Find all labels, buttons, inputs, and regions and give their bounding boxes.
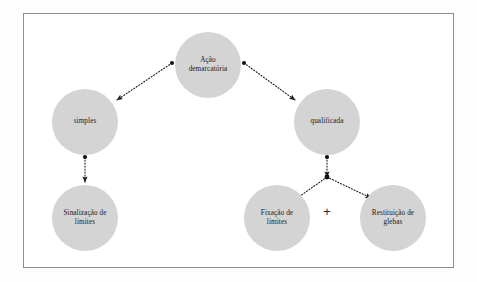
node-label: simples bbox=[69, 117, 102, 127]
connector-origin-dot bbox=[170, 61, 174, 65]
plus-conjunction-symbol: + bbox=[323, 205, 331, 218]
node-simples[interactable]: simples bbox=[52, 89, 118, 155]
node-label: Ação demarcatória bbox=[184, 56, 233, 75]
connector-acao-to-simples bbox=[117, 63, 172, 100]
node-label: Sinalização de limites bbox=[58, 209, 111, 228]
connector-origin-dot bbox=[83, 155, 87, 159]
node-sinalizacao-de-limites[interactable]: Sinalização de limites bbox=[52, 185, 118, 251]
diagram-page: Ação demarcatória simples qualificada Si… bbox=[0, 0, 477, 282]
node-acao-demarcatoria[interactable]: Ação demarcatória bbox=[175, 32, 241, 98]
connector-origin-dot bbox=[325, 155, 329, 159]
node-fixacao-de-limites[interactable]: Fixação de limites bbox=[244, 185, 310, 251]
node-label: qualificada bbox=[305, 117, 348, 127]
node-restituicao-de-glebas[interactable]: Restituição de glebas bbox=[360, 185, 426, 251]
connector-junction-to-restituicao bbox=[327, 177, 371, 198]
node-label: Restituição de glebas bbox=[367, 209, 419, 228]
connector-acao-to-qualificada bbox=[244, 63, 295, 100]
connector-origin-dot bbox=[242, 61, 246, 65]
node-qualificada[interactable]: qualificada bbox=[294, 89, 360, 155]
branch-junction-dot bbox=[325, 175, 330, 180]
node-label: Fixação de limites bbox=[256, 209, 298, 228]
